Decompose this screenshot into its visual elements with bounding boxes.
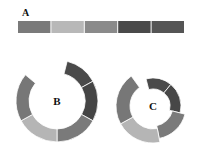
panel-b-label: B (53, 95, 61, 107)
panel-a-label: A (22, 7, 30, 18)
strip-segment-4 (118, 21, 150, 33)
diagram-canvas: A B C (0, 0, 199, 154)
spiral-segment-5 (116, 76, 139, 124)
strip-segment-1 (18, 21, 50, 33)
strip-segment-3 (85, 21, 117, 33)
strip-segment-5 (152, 21, 184, 33)
spiral-segment-3 (157, 111, 185, 138)
strip-segment-2 (51, 21, 83, 33)
ring-segment-5 (16, 75, 35, 121)
ring-segment-2 (82, 81, 98, 121)
ring-segment-3 (57, 114, 93, 142)
ring-segment-4 (21, 114, 57, 142)
panel-c-label: C (149, 100, 157, 112)
panel-a-strip (18, 21, 184, 33)
